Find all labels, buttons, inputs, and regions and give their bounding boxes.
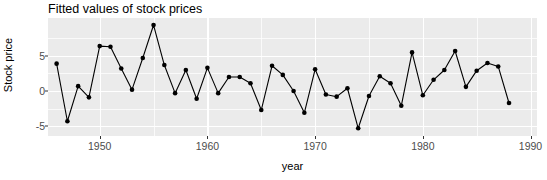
x-tick-label: 1950 [88, 140, 111, 152]
data-point [237, 75, 242, 80]
y-tick-label: 0 [19, 85, 45, 97]
data-point [356, 126, 361, 131]
chart-title: Fitted values of stock prices [48, 1, 202, 17]
chart-figure: Fitted values of stock prices Stock pric… [0, 0, 547, 180]
x-tick-mark [207, 136, 208, 139]
data-point [97, 44, 102, 49]
x-tick-mark [531, 136, 532, 139]
data-point [281, 73, 286, 78]
data-point [151, 23, 156, 28]
data-point [108, 45, 113, 50]
data-point [367, 94, 372, 99]
data-point [388, 81, 393, 86]
data-point [87, 95, 92, 100]
x-axis-title: year [48, 160, 537, 172]
data-point [216, 91, 221, 96]
data-point [377, 74, 382, 79]
data-point [291, 89, 296, 94]
data-point [270, 63, 275, 68]
data-point [345, 86, 350, 91]
x-tick-label: 1960 [196, 140, 219, 152]
data-point [194, 96, 199, 101]
x-tick-mark [100, 136, 101, 139]
data-point [130, 87, 135, 92]
plot-panel [48, 18, 537, 136]
data-point [140, 56, 145, 61]
x-tick-label: 1980 [411, 140, 434, 152]
y-axis: -505 [16, 18, 45, 136]
data-point [453, 49, 458, 54]
data-point [248, 81, 253, 86]
data-point [410, 50, 415, 55]
data-point [431, 78, 436, 83]
data-point [442, 68, 447, 73]
data-point [474, 68, 479, 73]
series-points [54, 23, 511, 131]
y-tick-label: -5 [19, 120, 45, 132]
data-point [421, 93, 426, 98]
data-point [259, 108, 264, 113]
data-point [184, 68, 189, 73]
data-point [173, 91, 178, 96]
data-point [162, 63, 167, 68]
data-point [227, 75, 232, 80]
data-point [205, 66, 210, 71]
data-point [464, 85, 469, 90]
x-tick-label: 1970 [303, 140, 326, 152]
data-point [324, 92, 329, 97]
data-point [334, 94, 339, 99]
series-line-fitted-stock-price [48, 18, 537, 136]
x-tick-label: 1990 [519, 140, 542, 152]
x-axis: 19501960197019801990 [48, 136, 537, 156]
y-axis-title: Stock price [0, 0, 16, 130]
x-tick-mark [315, 136, 316, 139]
data-point [399, 104, 404, 109]
data-point [302, 111, 307, 116]
data-point [65, 119, 70, 124]
data-point [485, 61, 490, 66]
data-point [76, 84, 81, 89]
y-axis-title-text: Stock price [2, 38, 14, 92]
x-tick-mark [423, 136, 424, 139]
data-point [119, 66, 124, 71]
y-tick-label: 5 [19, 50, 45, 62]
data-point [313, 67, 318, 72]
data-point [54, 61, 59, 66]
data-point [507, 101, 512, 106]
data-point [496, 64, 501, 69]
